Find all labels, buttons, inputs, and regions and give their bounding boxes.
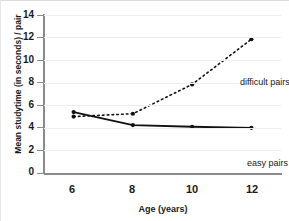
y-axis-tick-label: 12 xyxy=(23,32,34,42)
y-axis-tick-label: 8 xyxy=(28,77,34,87)
gridline xyxy=(44,15,281,16)
y-tick-wrap: 10 xyxy=(1,55,34,65)
gridline xyxy=(44,60,281,61)
gridline xyxy=(44,105,281,106)
y-axis-tick-label: 0 xyxy=(28,167,34,177)
data-point xyxy=(131,112,135,116)
gridline xyxy=(44,128,281,129)
y-axis-tick-label: 4 xyxy=(28,122,34,132)
x-axis-tick-label: 12 xyxy=(246,184,258,195)
gridline xyxy=(44,37,281,38)
y-axis-tick-label: 10 xyxy=(23,55,34,65)
x-axis-title: Age (years) xyxy=(44,204,282,214)
data-point xyxy=(131,123,135,127)
x-axis-tick-label: 6 xyxy=(69,184,75,195)
x-axis-tick-label: 10 xyxy=(186,184,198,195)
series-annotation-difficult-pairs: difficult pairs xyxy=(240,77,289,87)
series-annotation-easy-pairs: easy pairs xyxy=(247,158,288,168)
x-axis-tick-label: 8 xyxy=(129,184,135,195)
line-chart-figure: Mean studytime (in seconds) / pair 14 12… xyxy=(0,0,289,221)
data-point xyxy=(72,110,76,114)
plot-area: difficult pairs easy pairs xyxy=(44,15,281,173)
series-line-easy-pairs xyxy=(74,112,252,128)
y-axis-tick-label: 2 xyxy=(28,145,34,155)
series-markers-difficult-pairs xyxy=(72,37,254,119)
y-axis-tick-label: 6 xyxy=(28,100,34,110)
data-point xyxy=(72,114,76,118)
y-tick-wrap: 12 xyxy=(1,32,34,42)
gridline xyxy=(44,150,281,151)
y-tick-wrap: 6 xyxy=(1,100,34,110)
y-tick-wrap: 4 xyxy=(1,122,34,132)
y-tick-wrap: 0 xyxy=(1,167,34,177)
x-axis-line xyxy=(44,173,282,175)
y-tick-wrap: 8 xyxy=(1,77,34,87)
y-tick-wrap: 14 xyxy=(1,10,34,20)
y-axis-tick-label: 14 xyxy=(23,10,34,20)
y-tick-wrap: 2 xyxy=(1,145,34,155)
